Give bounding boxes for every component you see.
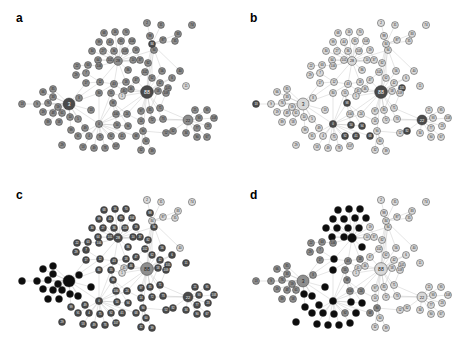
- graph-node[interactable]: [123, 206, 130, 213]
- graph-node[interactable]: [113, 111, 120, 118]
- graph-node[interactable]: [340, 215, 347, 222]
- graph-node[interactable]: [74, 63, 81, 70]
- graph-node[interactable]: [75, 133, 82, 140]
- graph-node[interactable]: [194, 302, 201, 309]
- graph-node[interactable]: [358, 288, 365, 295]
- graph-node[interactable]: [183, 115, 193, 125]
- graph-node[interactable]: [34, 278, 41, 285]
- graph-node[interactable]: [426, 284, 433, 291]
- graph-node[interactable]: [391, 80, 398, 87]
- graph-node[interactable]: [19, 278, 26, 285]
- graph-node[interactable]: [194, 311, 201, 318]
- graph-node[interactable]: [95, 120, 102, 127]
- graph-node[interactable]: [95, 297, 102, 304]
- graph-node[interactable]: [80, 321, 87, 328]
- graph-node[interactable]: [367, 224, 374, 231]
- graph-node[interactable]: [430, 292, 437, 299]
- graph-node[interactable]: [128, 86, 135, 93]
- graph-node[interactable]: [391, 257, 398, 264]
- graph-node[interactable]: [147, 107, 154, 114]
- graph-node[interactable]: [125, 67, 132, 74]
- graph-node[interactable]: [125, 244, 132, 251]
- graph-node[interactable]: [86, 310, 93, 317]
- graph-node[interactable]: [19, 101, 26, 108]
- graph-node[interactable]: [357, 206, 364, 213]
- graph-node[interactable]: [96, 39, 103, 46]
- graph-node[interactable]: [149, 41, 156, 48]
- graph-node[interactable]: [341, 57, 348, 64]
- graph-node[interactable]: [147, 284, 154, 291]
- graph-node[interactable]: [73, 249, 80, 256]
- graph-node[interactable]: [347, 143, 354, 150]
- graph-node[interactable]: [50, 94, 57, 101]
- graph-node[interactable]: [377, 196, 384, 203]
- graph-node[interactable]: [348, 57, 357, 66]
- graph-node[interactable]: [397, 130, 404, 137]
- graph-node[interactable]: [314, 321, 321, 328]
- graph-node[interactable]: [279, 296, 286, 303]
- graph-node[interactable]: [149, 218, 156, 225]
- graph-node[interactable]: [310, 95, 317, 102]
- graph-node[interactable]: [345, 48, 352, 55]
- graph-node[interactable]: [96, 90, 103, 97]
- graph-node[interactable]: [40, 266, 47, 273]
- graph-node[interactable]: [155, 265, 162, 272]
- graph-node[interactable]: [342, 267, 349, 274]
- graph-node[interactable]: [82, 125, 89, 132]
- graph-node[interactable]: [417, 292, 427, 302]
- graph-node[interactable]: [297, 275, 309, 287]
- graph-node[interactable]: [123, 256, 130, 263]
- graph-node[interactable]: [157, 282, 164, 289]
- graph-node[interactable]: [330, 240, 337, 247]
- graph-node[interactable]: [133, 47, 140, 54]
- graph-node[interactable]: [160, 293, 167, 300]
- graph-node[interactable]: [383, 294, 390, 301]
- graph-node[interactable]: [107, 234, 114, 241]
- graph-node[interactable]: [406, 215, 413, 222]
- graph-node[interactable]: [307, 249, 314, 256]
- graph-node[interactable]: [274, 286, 281, 293]
- graph-node[interactable]: [50, 287, 57, 294]
- graph-node[interactable]: [253, 278, 260, 285]
- graph-node[interactable]: [325, 145, 332, 152]
- graph-node[interactable]: [289, 104, 296, 111]
- graph-node[interactable]: [344, 80, 351, 87]
- graph-node[interactable]: [114, 299, 121, 306]
- graph-node[interactable]: [192, 107, 199, 114]
- graph-node[interactable]: [145, 60, 152, 67]
- graph-node[interactable]: [381, 107, 388, 114]
- graph-node[interactable]: [397, 90, 404, 97]
- graph-node[interactable]: [417, 115, 427, 125]
- graph-node[interactable]: [188, 21, 195, 28]
- graph-node[interactable]: [83, 70, 90, 77]
- graph-node[interactable]: [380, 209, 387, 216]
- graph-node[interactable]: [383, 75, 390, 82]
- graph-node[interactable]: [114, 57, 123, 66]
- graph-node[interactable]: [357, 256, 364, 263]
- graph-node[interactable]: [97, 79, 104, 86]
- graph-node[interactable]: [301, 114, 308, 121]
- graph-node[interactable]: [290, 296, 297, 303]
- graph-node[interactable]: [142, 246, 149, 253]
- graph-node[interactable]: [96, 216, 103, 223]
- graph-node[interactable]: [367, 47, 374, 54]
- graph-node[interactable]: [426, 107, 433, 114]
- graph-node[interactable]: [159, 245, 166, 252]
- graph-node[interactable]: [192, 284, 199, 291]
- graph-node[interactable]: [129, 38, 136, 45]
- graph-node[interactable]: [55, 281, 62, 288]
- graph-node[interactable]: [331, 311, 338, 318]
- graph-node[interactable]: [59, 287, 66, 294]
- graph-node[interactable]: [330, 63, 337, 70]
- graph-node[interactable]: [381, 284, 388, 291]
- graph-node[interactable]: [89, 48, 96, 55]
- graph-node[interactable]: [344, 100, 351, 107]
- graph-node[interactable]: [322, 107, 329, 114]
- graph-node[interactable]: [362, 263, 369, 270]
- graph-node[interactable]: [138, 108, 145, 115]
- graph-node[interactable]: [367, 77, 374, 84]
- graph-node[interactable]: [309, 133, 316, 140]
- graph-node[interactable]: [346, 29, 353, 36]
- graph-node[interactable]: [149, 75, 156, 82]
- graph-node[interactable]: [159, 68, 166, 75]
